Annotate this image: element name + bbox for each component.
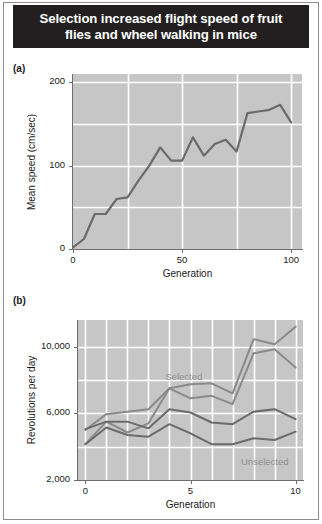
y-axis-tick-label: 200 bbox=[5, 75, 65, 86]
y-axis-tick bbox=[69, 82, 73, 83]
y-axis-tick-label: 6,000 bbox=[10, 406, 70, 417]
series-label-unselected: Unselected bbox=[241, 456, 289, 467]
x-axis-tick bbox=[191, 480, 192, 484]
x-axis-tick-label: 5 bbox=[171, 485, 211, 496]
y-axis-tick-label: 0 bbox=[5, 242, 65, 253]
series-label-selected: Selected bbox=[165, 371, 202, 382]
x-axis-title-b: Generation bbox=[166, 499, 215, 510]
figure-title-banner: Selection increased flight speed of frui… bbox=[13, 5, 309, 48]
x-axis-line-a bbox=[72, 249, 303, 250]
x-axis-title-a: Generation bbox=[163, 268, 212, 279]
figure-container: Selection increased flight speed of frui… bbox=[0, 0, 322, 524]
figure-title-line-2: flies and wheel walking in mice bbox=[65, 27, 257, 42]
figure-title-line-1: Selection increased flight speed of frui… bbox=[40, 11, 283, 26]
y-axis-tick bbox=[69, 166, 73, 167]
x-axis-tick bbox=[85, 480, 86, 484]
plot-svg-a bbox=[73, 74, 302, 249]
y-axis-tick bbox=[74, 480, 78, 481]
series-line bbox=[85, 349, 295, 444]
y-axis-title-a: Mean speed (cm/sec) bbox=[26, 113, 37, 209]
y-axis-title-b: Revolutions per day bbox=[26, 356, 37, 444]
x-axis-tick-label: 50 bbox=[162, 254, 202, 265]
plot-area-b: SelectedUnselected bbox=[78, 320, 303, 480]
plot-area-a bbox=[73, 74, 302, 249]
x-axis-tick-label: 100 bbox=[271, 254, 311, 265]
y-axis-tick-label: 2,000 bbox=[10, 473, 70, 484]
y-axis-tick bbox=[74, 413, 78, 414]
y-axis-tick bbox=[74, 347, 78, 348]
x-axis-tick bbox=[291, 249, 292, 253]
chart-panel-a: 0100200050100 Mean speed (cm/sec) Genera… bbox=[0, 55, 322, 285]
x-axis-tick bbox=[73, 249, 74, 253]
x-axis-tick-label: 0 bbox=[65, 485, 105, 496]
x-axis-tick-label: 0 bbox=[53, 254, 93, 265]
y-axis-line-b bbox=[77, 320, 78, 481]
y-axis-tick-label: 10,000 bbox=[10, 340, 70, 351]
x-axis-tick bbox=[296, 480, 297, 484]
y-axis-line-a bbox=[72, 74, 73, 250]
figure-title: Selection increased flight speed of frui… bbox=[40, 11, 283, 42]
chart-panel-b: SelectedUnselected 2,0006,00010,0000510 … bbox=[0, 288, 322, 524]
x-axis-tick-label: 10 bbox=[276, 485, 316, 496]
x-axis-tick bbox=[182, 249, 183, 253]
